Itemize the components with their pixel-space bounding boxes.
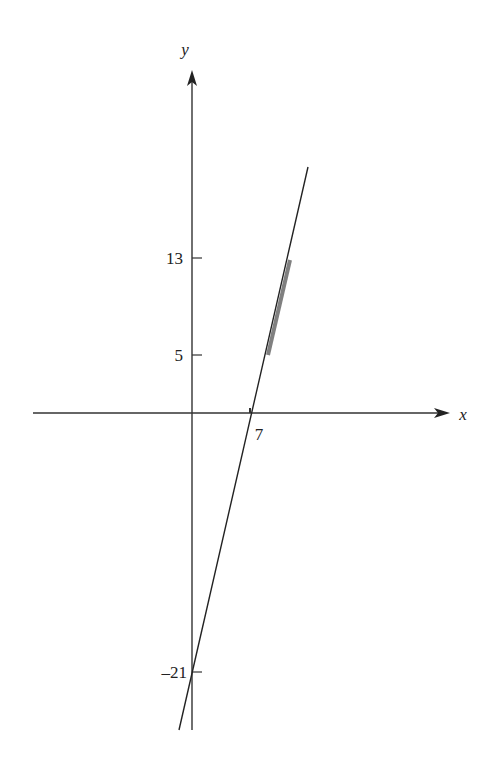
- highlighted-segment: [268, 260, 290, 355]
- y-axis-label: y: [179, 40, 189, 59]
- chart-canvas: y x 13 5 –21 7: [0, 0, 500, 757]
- tick-label-neg21: –21: [161, 663, 188, 682]
- plot-line: [179, 167, 308, 730]
- tick-label-13: 13: [166, 249, 183, 268]
- tick-label-7: 7: [255, 425, 264, 444]
- tick-label-5: 5: [175, 346, 184, 365]
- x-axis-label: x: [458, 405, 467, 424]
